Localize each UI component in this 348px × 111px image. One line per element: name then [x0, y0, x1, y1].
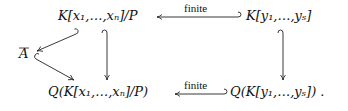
node-bottom-left: Q(K[x₁,…,xₙ]/P) [48, 84, 148, 99]
left-vertical-arrow [102, 30, 107, 80]
diag-to-abar-arrow [37, 29, 78, 51]
node-top-left: K[x₁,…,xₙ]/P [58, 8, 137, 23]
label-top-finite: finite [184, 2, 207, 14]
node-top-right: K[y₁,…,yₛ] [246, 8, 311, 23]
label-bottom-finite: finite [184, 79, 207, 91]
node-a-bar: A [19, 46, 28, 61]
right-vertical-arrow [278, 30, 283, 80]
diag-from-abar-arrow [34, 53, 74, 80]
node-bottom-right: Q(K[y₁,…,yₛ]) . [230, 84, 324, 99]
